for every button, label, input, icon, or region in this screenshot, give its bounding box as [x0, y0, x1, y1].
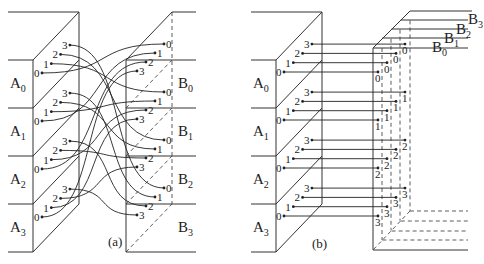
- source-port-label: 3: [304, 182, 310, 194]
- source-label-A0: A0: [253, 75, 269, 94]
- wire: [70, 93, 155, 197]
- target-port-label: 1: [157, 95, 163, 107]
- target-label-B2: B2: [178, 171, 193, 190]
- target-port-label: 2: [148, 104, 154, 116]
- source-port-label: 2: [295, 191, 301, 203]
- wire: [42, 44, 164, 73]
- source-port-label: 3: [62, 183, 68, 195]
- source-port-label: 2: [53, 48, 59, 60]
- source-port-label: 2: [295, 47, 301, 59]
- source-port-label: 1: [285, 105, 291, 117]
- source-port-label: 0: [276, 210, 282, 222]
- source-port-label: 1: [285, 153, 291, 165]
- target-port-label: 3: [139, 161, 145, 173]
- panel-b: A0A1A2A3B0B1B2B3001020300111213102122232…: [251, 11, 483, 252]
- target-port-label: 2: [393, 149, 399, 161]
- target-port-label: 0: [166, 134, 172, 146]
- source-port-label: 3: [304, 86, 310, 98]
- target-port-label: 1: [157, 143, 163, 155]
- target-port-label: 0: [166, 86, 172, 98]
- target-label-B1: B1: [178, 123, 193, 142]
- source-port-label: 1: [43, 58, 49, 70]
- target-port-label: 1: [157, 191, 163, 203]
- source-port-label: 0: [34, 163, 40, 175]
- target-port-label: 0: [375, 72, 381, 84]
- caption-b: (b): [312, 236, 327, 251]
- source-port-label: 2: [53, 192, 59, 204]
- target-label-B0: B0: [178, 75, 193, 94]
- target-port-label: 3: [393, 197, 399, 209]
- source-port-label: 1: [43, 106, 49, 118]
- source-port-label: 0: [276, 114, 282, 126]
- target-port-label: 3: [139, 113, 145, 125]
- source-label-A2: A2: [10, 171, 26, 190]
- source-label-A0: A0: [10, 75, 26, 94]
- source-port-label: 3: [62, 135, 68, 147]
- target-port-label: 2: [148, 56, 154, 68]
- wire: [61, 102, 155, 149]
- target-port-label: 0: [166, 182, 172, 194]
- target-port-label: 1: [384, 111, 390, 123]
- target-port-label: 3: [384, 207, 390, 219]
- source-port-label: 1: [43, 202, 49, 214]
- wire: [61, 150, 146, 158]
- panel-a: A0A1A2A3B0B1B2B3001122330011223300112233…: [8, 12, 196, 252]
- source-port-label: 0: [276, 162, 282, 174]
- target-port-label: 2: [402, 140, 408, 152]
- source-port-label: 0: [34, 115, 40, 127]
- target-port-label: 0: [402, 44, 408, 56]
- source-port-label: 3: [62, 39, 68, 51]
- source-label-A3: A3: [253, 219, 269, 238]
- source-port-label: 0: [34, 211, 40, 223]
- source-port-label: 2: [295, 95, 301, 107]
- source-port-label: 0: [34, 67, 40, 79]
- target-port-label: 1: [375, 120, 381, 132]
- source-port-label: 3: [62, 87, 68, 99]
- target-port-label: 2: [148, 152, 154, 164]
- source-port-label: 3: [304, 134, 310, 146]
- source-diagonal: [33, 204, 79, 252]
- source-port-label: 1: [285, 57, 291, 69]
- source-port-label: 1: [43, 154, 49, 166]
- target-port-label: 1: [393, 101, 399, 113]
- target-label-B3: B3: [468, 11, 483, 30]
- source-port-label: 2: [53, 144, 59, 156]
- interconnect-diagram: A0A1A2A3B0B1B2B3001122330011223300112233…: [0, 0, 484, 264]
- source-label-A1: A1: [10, 123, 26, 142]
- source-port-label: 0: [276, 66, 282, 78]
- source-port-label: 3: [304, 38, 310, 50]
- target-port-label: 3: [139, 65, 145, 77]
- target-port-label: 3: [139, 209, 145, 221]
- target-port-label: 0: [393, 53, 399, 65]
- target-port-label: 1: [402, 92, 408, 104]
- target-port-label: 3: [402, 188, 408, 200]
- target-port-label: 1: [157, 47, 163, 59]
- source-label-A1: A1: [253, 123, 269, 142]
- source-label-A2: A2: [253, 171, 269, 190]
- target-port-label: 0: [384, 63, 390, 75]
- target-port-label: 2: [384, 159, 390, 171]
- source-label-A3: A3: [10, 219, 26, 238]
- target-label-B3: B3: [178, 219, 193, 238]
- target-port-label: 2: [148, 200, 154, 212]
- target-port-label: 0: [166, 38, 172, 50]
- caption-a: (a): [108, 234, 122, 249]
- source-port-label: 1: [285, 201, 291, 213]
- target-port-label: 3: [375, 216, 381, 228]
- source-port-label: 2: [53, 96, 59, 108]
- target-port-label: 2: [375, 168, 381, 180]
- source-port-label: 2: [295, 143, 301, 155]
